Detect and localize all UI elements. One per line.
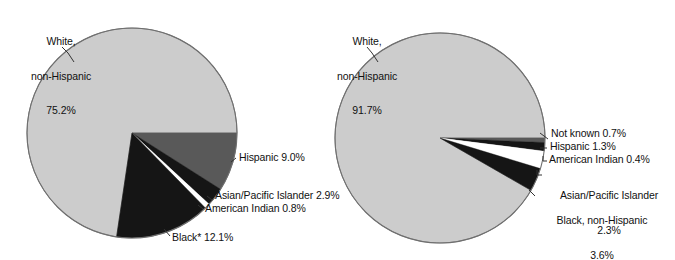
label-right-white-non-hispanic: White, non-Hispanic 91.7% [312,13,422,140]
label-right-not-known: Not known 0.7% [551,128,626,140]
label-left-hispanic: Hispanic 9.0% [239,152,305,164]
label-line-2: non-Hispanic [6,71,116,83]
label-right-black-non-hispanic: Black, non-Hispanic 3.6% [535,192,669,260]
label-line-1: White, [312,36,422,48]
label-left-black: Black* 12.1% [172,232,233,244]
label-left-asian-pacific-islander: Asian/Pacific Islander 2.9% [215,190,340,202]
label-left-american-indian: American Indian 0.8% [205,203,306,215]
label-line-3: 91.7% [312,105,422,117]
label-line-1: White, [6,36,116,48]
label-line-2: non-Hispanic [312,71,422,83]
figure-canvas: White, non-Hispanic 75.2% Hispanic 9.0% … [0,0,675,260]
label-line-1: Black, non-Hispanic [535,215,669,227]
label-right-american-indian: American Indian 0.4% [549,154,650,166]
label-line-3: 75.2% [6,105,116,117]
label-line-2: 3.6% [535,250,669,260]
label-left-white-non-hispanic: White, non-Hispanic 75.2% [6,13,116,140]
label-right-hispanic: Hispanic 1.3% [550,141,616,153]
